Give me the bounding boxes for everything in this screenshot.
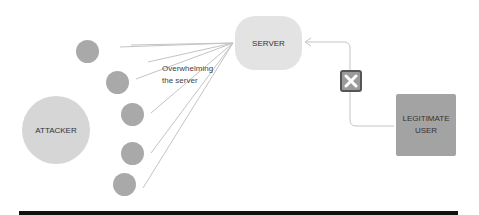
annotation: Overwhelming the server [162, 63, 213, 87]
bot-node [113, 173, 136, 196]
bot-node [76, 40, 99, 63]
legit-label-2: USER [403, 125, 450, 137]
legit-label-1: LEGITIMATE [403, 113, 450, 125]
bot-node [121, 103, 144, 126]
bottom-bar [19, 211, 458, 215]
attacker-node: ATTACKER [22, 96, 90, 164]
x-mark-icon [340, 70, 362, 92]
bot-node [106, 71, 129, 94]
annotation-line-1: Overwhelming [162, 63, 213, 75]
server-label: SERVER [252, 39, 285, 48]
attacker-label: ATTACKER [35, 126, 76, 135]
bot-node [121, 142, 144, 165]
legitimate-user-node: LEGITIMATE USER [396, 94, 456, 156]
annotation-line-2: the server [162, 75, 213, 87]
server-node: SERVER [235, 16, 302, 70]
